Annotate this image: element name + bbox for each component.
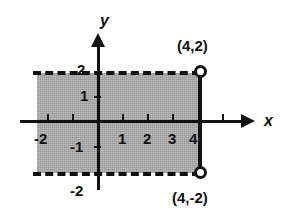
x-tick-neg1 (72, 114, 74, 121)
y-tick-neg1 (94, 146, 101, 148)
bottom-boundary-dashed (33, 172, 200, 176)
x-tick-label-2: 2 (143, 131, 151, 146)
y-tick-label-neg1: -1 (70, 139, 83, 154)
shaded-region (37, 73, 200, 173)
y-axis-line (97, 46, 100, 190)
y-axis-label: y (100, 13, 109, 29)
x-tick-3 (172, 114, 174, 121)
y-tick-label-1: 1 (80, 88, 88, 103)
y-axis-arrow-icon (91, 33, 105, 47)
y-tick-1 (94, 96, 101, 98)
x-axis-arrow-icon (241, 114, 255, 128)
open-circle-point-4-2 (194, 65, 207, 78)
x-tick-1 (122, 114, 124, 121)
x-tick-2 (147, 114, 149, 121)
top-boundary-dashed (33, 71, 200, 75)
x-axis-line (20, 120, 243, 123)
y-tick-label-neg2: -2 (70, 183, 83, 198)
right-boundary-solid (198, 71, 202, 174)
x-tick-label-4: 4 (189, 131, 197, 146)
x-axis-label: x (264, 113, 273, 129)
x-tick-neg2 (47, 114, 49, 121)
x-tick-5 (222, 114, 224, 121)
x-tick-label-1: 1 (118, 131, 126, 146)
point-label-4-neg2: (4,-2) (172, 190, 208, 205)
x-tick-label-3: 3 (168, 131, 176, 146)
open-circle-point-4-neg2 (194, 166, 207, 179)
x-tick-label-neg2: -2 (34, 131, 47, 146)
point-label-4-2: (4,2) (177, 38, 208, 53)
coordinate-graph-figure: x y -2 1 2 3 4 2 1 -1 -2 (4,2) (4,-2) (0, 0, 297, 222)
